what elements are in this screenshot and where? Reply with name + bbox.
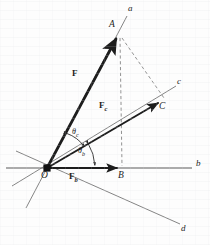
axis-label-a: a [128,4,133,13]
construction-line-a-to-b [120,38,122,166]
vector-label-Fc-sub: c [105,105,108,112]
axis-label-d: d [181,224,186,233]
vector-label-Fc: Fc [99,101,107,112]
vector-decomposition-figure: a b c d O A B C F Fb Fc θc θb [0,0,210,245]
axis-c-line [12,86,176,186]
vector-label-Fb-sub: b [75,176,78,183]
vector-label-Fb: Fb [69,172,78,183]
angle-arc-theta-b [88,143,95,165]
angle-label-theta-c-sub: c [76,132,79,138]
angle-label-theta-b-sub: b [82,151,85,157]
point-label-C: C [159,102,165,112]
vector-label-F: F [72,69,78,78]
figure-canvas [0,0,210,245]
angle-label-theta-c: θc [72,128,79,138]
axis-label-b: b [196,159,201,168]
point-label-O: O [41,171,48,181]
vector-label-F-base: F [72,68,78,78]
axis-label-c: c [177,77,181,86]
construction-line-a-to-c [122,38,164,98]
angle-label-theta-b: θb [78,147,85,157]
point-label-A: A [109,20,115,30]
point-label-B: B [118,171,124,181]
axis-d-line [16,151,180,224]
